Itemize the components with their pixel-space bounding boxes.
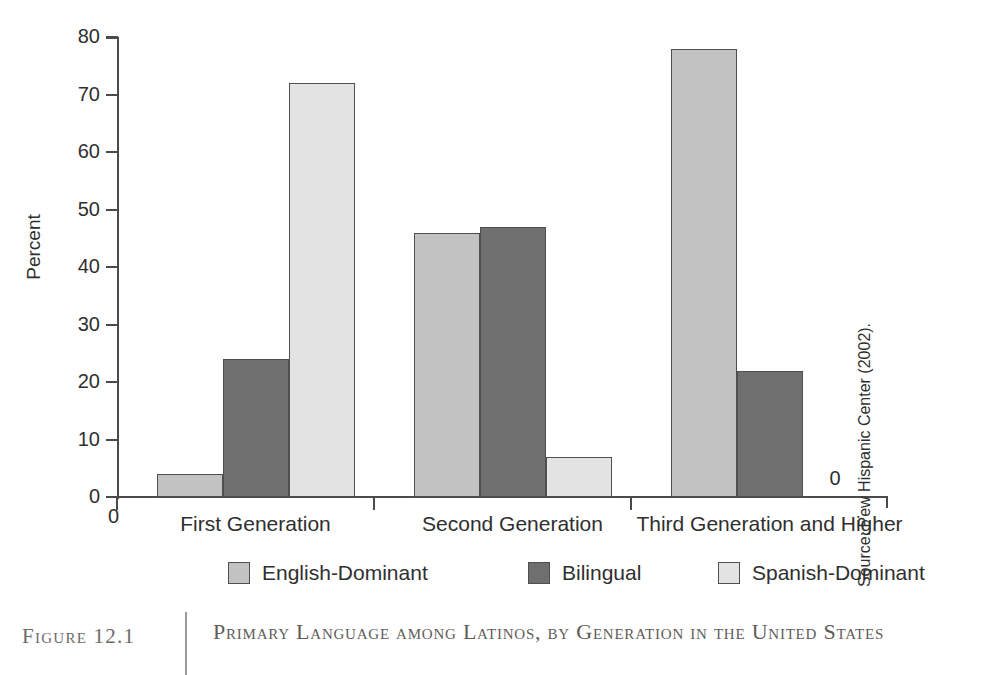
y-axis-title: Percent [23, 187, 45, 307]
legend-item[interactable]: Bilingual [528, 558, 641, 588]
y-axis-tick-label-wrap: 40 [48, 256, 100, 276]
y-axis-tick-label-wrap: 50 [48, 199, 100, 219]
y-axis-tick-label: 40 [54, 256, 100, 276]
y-axis-tick-label: 10 [54, 429, 100, 449]
legend-label: Spanish-Dominant [752, 562, 925, 584]
legend-swatch [228, 562, 250, 584]
bar [414, 233, 480, 498]
x-axis-tick [630, 497, 632, 510]
figure-caption: Figure 12.1 Primary Language among Latin… [0, 612, 982, 675]
x-axis-tick [373, 497, 375, 510]
caption-title: Primary Language among Latinos, by Gener… [213, 618, 913, 646]
legend-item[interactable]: Spanish-Dominant [718, 558, 925, 588]
x-axis-group-label: Third Generation and Higher [590, 512, 950, 536]
legend-swatch [528, 562, 550, 584]
bar [289, 83, 355, 497]
caption-figure-number: Figure 12.1 [22, 624, 135, 649]
y-axis-tick-label-wrap: 30 [48, 314, 100, 334]
y-axis-tick-label: 80 [54, 26, 100, 46]
y-axis-tick-label: 20 [54, 371, 100, 391]
y-axis-tick-label-wrap: 70 [48, 84, 100, 104]
y-axis-tick-label-wrap: 0 [48, 486, 100, 506]
y-axis-tick-label: 70 [54, 84, 100, 104]
y-axis-tick-label: 0 [54, 486, 100, 506]
y-axis-tick-label: 30 [54, 314, 100, 334]
bar [480, 227, 546, 497]
legend-swatch [718, 562, 740, 584]
figure-container: Percent 01020304050607080 0 First Genera… [0, 0, 982, 675]
bar [157, 474, 223, 497]
bars-layer [117, 37, 888, 497]
y-axis-tick-label-wrap: 20 [48, 371, 100, 391]
bar [671, 49, 737, 498]
bar [737, 371, 803, 498]
chart-legend: English-DominantBilingualSpanish-Dominan… [117, 558, 888, 592]
bar [223, 359, 289, 497]
y-axis-tick-label-wrap: 60 [48, 141, 100, 161]
zero-value-annotation: 0 [830, 468, 841, 488]
y-axis-tick-label: 60 [54, 141, 100, 161]
y-axis-tick-label: 50 [54, 199, 100, 219]
x-axis-end-cap [886, 496, 888, 508]
legend-label: Bilingual [562, 562, 641, 584]
y-axis-tick-label-wrap: 80 [48, 26, 100, 46]
legend-label: English-Dominant [262, 562, 428, 584]
caption-divider [185, 612, 187, 675]
source-note: Source: Pew Hispanic Center (2002). [856, 310, 874, 600]
y-axis-tick-label-wrap: 10 [48, 429, 100, 449]
bar [546, 457, 612, 497]
legend-item[interactable]: English-Dominant [228, 558, 428, 588]
